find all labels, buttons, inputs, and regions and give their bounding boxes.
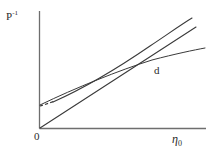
figure-container: P-1 η0 0 d <box>0 0 216 155</box>
y-axis-label: P-1 <box>6 10 18 22</box>
curve-d-label: d <box>154 65 160 76</box>
line-through-origin <box>40 27 196 128</box>
y-axis-label-exponent: -1 <box>12 9 18 17</box>
origin-tick-label: 0 <box>34 131 40 142</box>
x-axis-label: η0 <box>172 133 182 148</box>
x-axis-label-subscript: 0 <box>178 139 182 148</box>
plot-canvas <box>0 0 216 155</box>
